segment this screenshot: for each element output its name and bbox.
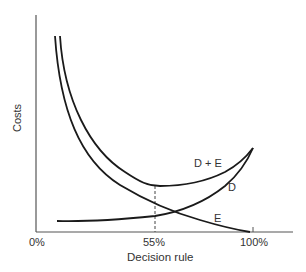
curve-label-d: D (228, 182, 236, 193)
curve-d-plus-e (60, 36, 253, 186)
x-tick-label-100: 100% (240, 237, 268, 248)
x-axis-label: Decision rule (127, 252, 193, 264)
curve-label-e: E (214, 213, 221, 224)
curve-d (57, 148, 253, 221)
chart-canvas (0, 0, 306, 272)
x-tick-label-0: 0% (29, 237, 45, 248)
x-tick-label-55: 55% (143, 237, 165, 248)
curve-e (55, 36, 250, 232)
y-axis-label: Costs (11, 98, 23, 138)
curve-label-d-plus-e: D + E (194, 158, 222, 169)
